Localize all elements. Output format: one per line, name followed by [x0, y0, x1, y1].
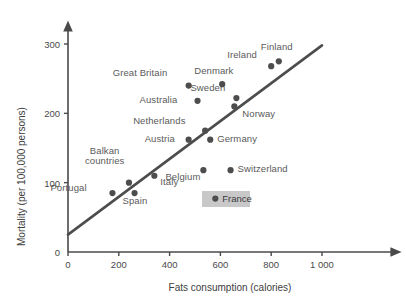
data-point-marker: [131, 190, 137, 196]
data-points: [109, 58, 282, 201]
data-point-marker: [212, 196, 218, 202]
data-point-marker: [200, 167, 206, 173]
data-point-marker: [207, 137, 213, 143]
data-point-marker: [276, 58, 282, 64]
data-point-marker: [233, 95, 239, 101]
data-point-marker: [227, 167, 233, 173]
data-point-marker: [268, 63, 274, 69]
trend-line: [68, 45, 322, 234]
data-point-marker: [151, 173, 157, 179]
data-point-marker: [186, 137, 192, 143]
trend-line-segment: [68, 45, 322, 234]
data-point-marker: [109, 190, 115, 196]
axes: [68, 30, 392, 252]
data-point-marker: [186, 83, 192, 89]
data-point-marker: [194, 98, 200, 104]
data-point-label: France: [222, 193, 252, 204]
data-point-marker: [231, 103, 237, 109]
data-point-marker: [219, 81, 225, 87]
data-point-marker: [202, 128, 208, 134]
chart-canvas: [0, 0, 406, 307]
data-point-marker: [126, 180, 132, 186]
scatter-chart: PortugalBalkancountriesSpainItalyGreat B…: [0, 0, 406, 307]
